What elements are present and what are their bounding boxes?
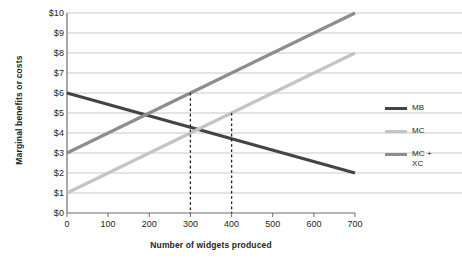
- legend-item-mc-xc: MC +XC: [385, 149, 462, 169]
- x-tick-700: 700: [335, 219, 375, 229]
- series-line-mc: [67, 53, 355, 193]
- legend-label-mc-xc-line1: MC +: [412, 149, 432, 158]
- x-tick-100: 100: [88, 219, 128, 229]
- x-tick-300: 300: [170, 219, 210, 229]
- legend-swatch-mc: [385, 130, 407, 133]
- gridlines: [67, 13, 355, 193]
- legend-label-mc: MC: [412, 126, 425, 136]
- legend-item-mb: MB: [385, 103, 462, 113]
- x-tick-400: 400: [212, 219, 252, 229]
- legend-swatch-mb: [385, 107, 407, 110]
- legend-item-mc: MC: [385, 126, 462, 136]
- x-tick-500: 500: [253, 219, 293, 229]
- x-axis-ticks: [67, 213, 355, 217]
- x-tick-600: 600: [294, 219, 334, 229]
- legend-label-mb: MB: [412, 103, 424, 113]
- x-tick-0: 0: [47, 219, 87, 229]
- legend-label-mc-xc-line2: XC: [412, 159, 423, 168]
- chart-legend: MB MC MC +XC: [385, 103, 462, 182]
- x-tick-200: 200: [129, 219, 169, 229]
- x-axis-label: Number of widgets produced: [67, 240, 355, 250]
- legend-label-mc-xc: MC +XC: [412, 149, 432, 169]
- chart-container: Marginal benefits or costs $0 $1 $2 $3 $…: [0, 0, 462, 263]
- legend-swatch-mc-xc: [385, 153, 407, 156]
